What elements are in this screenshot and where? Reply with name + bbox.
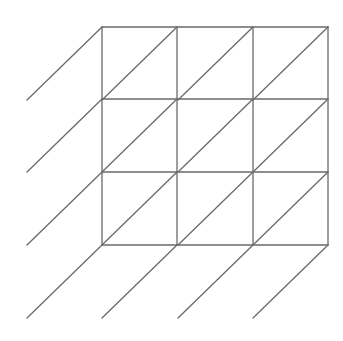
diagonal-line (27, 27, 102, 100)
diagonal-line (27, 172, 102, 245)
diagonal-line (102, 99, 177, 172)
diagonal-line (253, 172, 328, 245)
lattice-diagram (0, 0, 343, 341)
diagonal-line (178, 172, 253, 245)
diagonal-line (27, 245, 102, 318)
diagonal-line (178, 27, 253, 100)
diagonal-line (178, 99, 253, 172)
diagonal-line (102, 27, 177, 100)
diagonal-line (102, 245, 177, 318)
diagonal-line (253, 245, 328, 318)
diagonal-line (178, 245, 253, 318)
diagonal-line (27, 99, 102, 172)
diagonal-line (253, 27, 328, 100)
diagonal-line (253, 99, 328, 172)
diagonal-line (102, 172, 177, 245)
